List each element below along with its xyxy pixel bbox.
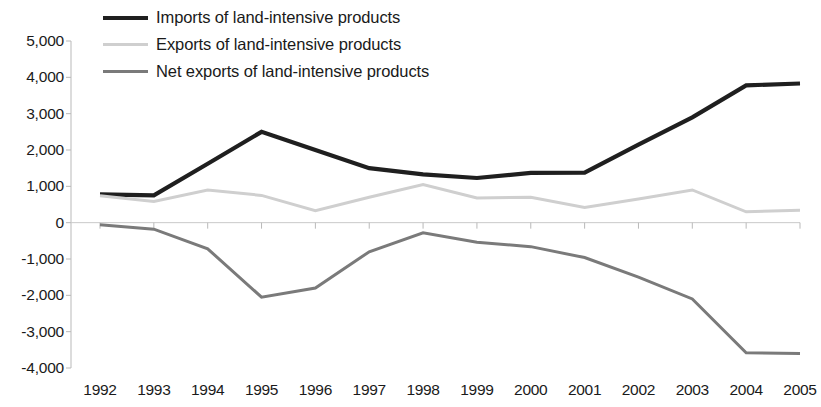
x-axis-tick-label: 1999 <box>450 381 504 399</box>
series-line-exports <box>100 185 800 212</box>
x-axis-tick-label: 1997 <box>342 381 396 399</box>
x-axis-tick-label: 1998 <box>396 381 450 399</box>
x-axis-tick-label: 2003 <box>665 381 719 399</box>
x-axis-tick-label: 2004 <box>719 381 773 399</box>
series-layer <box>100 84 800 354</box>
x-axis-tick-label: 1995 <box>235 381 289 399</box>
x-axis-tick-label: 1994 <box>181 381 235 399</box>
x-axis-tick-label: 1993 <box>127 381 181 399</box>
x-axis-tick-label: 1992 <box>73 381 127 399</box>
x-axis-tick-label: 2000 <box>504 381 558 399</box>
x-axis-tick-labels: 1992199319941995199619971998199920002001… <box>0 381 805 407</box>
axis-layer <box>66 41 800 368</box>
x-axis-tick-label: 2001 <box>558 381 612 399</box>
series-line-imports <box>100 84 800 196</box>
x-axis-tick-label: 1996 <box>288 381 342 399</box>
x-axis-tick-label: 2005 <box>773 381 821 399</box>
series-line-net-exports <box>100 225 800 354</box>
x-axis-tick-label: 2002 <box>611 381 665 399</box>
